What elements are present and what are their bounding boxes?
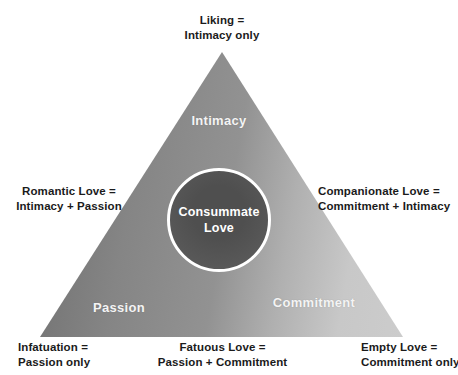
label-romantic-love: Romantic Love = Intimacy + Passion bbox=[6, 184, 132, 213]
label-romantic-love-line2: Intimacy + Passion bbox=[6, 199, 132, 214]
label-liking-line1: Liking = bbox=[142, 13, 302, 28]
vertex-label-intimacy: Intimacy bbox=[149, 113, 289, 128]
label-companionate-love: Companionate Love = Commitment + Intimac… bbox=[318, 184, 458, 213]
consummate-love-circle: Consummate Love bbox=[167, 168, 271, 272]
consummate-love-label: Consummate Love bbox=[178, 204, 259, 237]
label-fatuous-love-line2: Passion + Commitment bbox=[152, 355, 293, 370]
vertex-label-passion: Passion bbox=[59, 300, 179, 315]
consummate-love-line2: Love bbox=[178, 220, 259, 237]
label-liking: Liking = Intimacy only bbox=[142, 13, 302, 42]
label-infatuation-line2: Passion only bbox=[18, 355, 138, 370]
love-triangle-diagram: Liking = Intimacy only Intimacy Passion … bbox=[0, 0, 458, 375]
label-companionate-love-line2: Commitment + Intimacy bbox=[318, 199, 458, 214]
label-companionate-love-line1: Companionate Love = bbox=[318, 184, 458, 199]
label-infatuation: Infatuation = Passion only bbox=[18, 340, 138, 369]
label-empty-love: Empty Love = Commitment only bbox=[361, 340, 458, 369]
label-fatuous-love: Fatuous Love = Passion + Commitment bbox=[152, 340, 293, 369]
label-infatuation-line1: Infatuation = bbox=[18, 340, 138, 355]
label-fatuous-love-line1: Fatuous Love = bbox=[152, 340, 293, 355]
label-liking-line2: Intimacy only bbox=[142, 28, 302, 43]
consummate-love-line1: Consummate bbox=[178, 204, 259, 221]
label-empty-love-line2: Commitment only bbox=[361, 355, 458, 370]
label-romantic-love-line1: Romantic Love = bbox=[6, 184, 132, 199]
vertex-label-commitment: Commitment bbox=[254, 295, 374, 310]
label-empty-love-line1: Empty Love = bbox=[361, 340, 458, 355]
